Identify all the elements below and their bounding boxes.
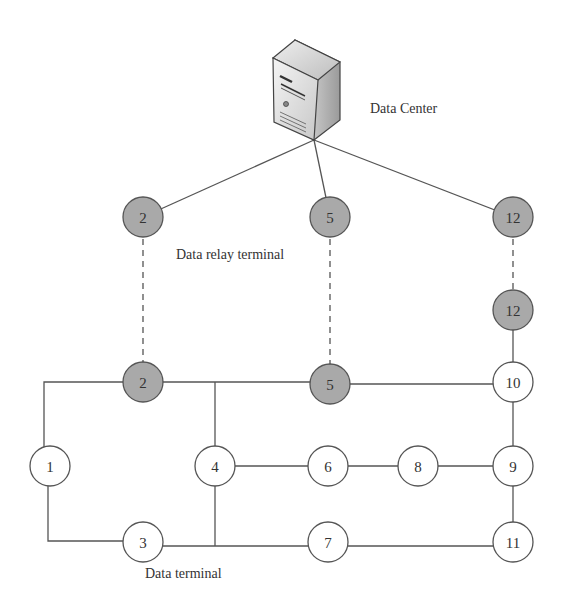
node-label: 5 — [326, 377, 334, 393]
relay-node-12: 12 — [493, 290, 533, 330]
terminal-node-4: 4 — [195, 446, 235, 486]
node-label: 3 — [139, 535, 147, 551]
node-label: 12 — [506, 210, 521, 226]
relay-node-5: 5 — [310, 364, 350, 404]
terminal-node-7: 7 — [308, 522, 348, 562]
node-label: 4 — [211, 459, 219, 475]
terminal-node-3: 3 — [123, 522, 163, 562]
data-terminal-label: Data terminal — [145, 566, 222, 582]
node-label: 10 — [506, 375, 521, 391]
data-relay-terminal-label: Data relay terminal — [176, 247, 284, 263]
node-label: 2 — [139, 210, 147, 226]
node-label: 12 — [506, 303, 521, 319]
relay-node-12: 12 — [493, 197, 533, 237]
node-label: 9 — [509, 459, 517, 475]
relay-node-5: 5 — [310, 197, 350, 237]
terminal-node-1: 1 — [30, 446, 70, 486]
terminal-node-9: 9 — [493, 446, 533, 486]
node-label: 8 — [414, 459, 422, 475]
node-label: 1 — [46, 459, 54, 475]
network-diagram: 2512122510146893711 — [0, 0, 570, 613]
terminal-node-11: 11 — [493, 522, 533, 562]
server-tower-icon — [273, 40, 340, 140]
node-label: 6 — [324, 459, 332, 475]
node-label: 11 — [506, 535, 520, 551]
network-link — [143, 140, 314, 217]
data-center-label: Data Center — [370, 101, 437, 117]
node-label: 2 — [139, 375, 147, 391]
terminal-node-8: 8 — [398, 446, 438, 486]
node-label: 7 — [324, 535, 332, 551]
node-label: 5 — [326, 210, 334, 226]
terminal-node-10: 10 — [493, 362, 533, 402]
terminal-node-6: 6 — [308, 446, 348, 486]
edges-layer — [44, 140, 513, 546]
relay-node-2: 2 — [123, 362, 163, 402]
relay-node-2: 2 — [123, 197, 163, 237]
